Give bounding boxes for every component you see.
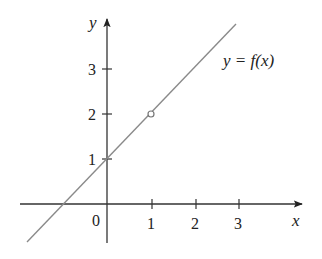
y-tick-label-2: 2: [88, 106, 96, 123]
x-axis-label: x: [291, 211, 300, 230]
function-graph: y x 0 1 2 3 1 2 3 y = f(x): [0, 0, 322, 259]
origin-label: 0: [92, 212, 100, 229]
y-tick-label-3: 3: [88, 61, 96, 78]
y-axis-label: y: [87, 13, 97, 32]
y-tick-label-1: 1: [88, 151, 96, 168]
function-label: y = f(x): [221, 51, 274, 70]
function-line: [27, 24, 236, 242]
x-tick-label-3: 3: [234, 215, 242, 232]
open-circle-hole: [148, 111, 154, 117]
x-tick-label-2: 2: [191, 215, 199, 232]
x-tick-label-1: 1: [147, 215, 155, 232]
